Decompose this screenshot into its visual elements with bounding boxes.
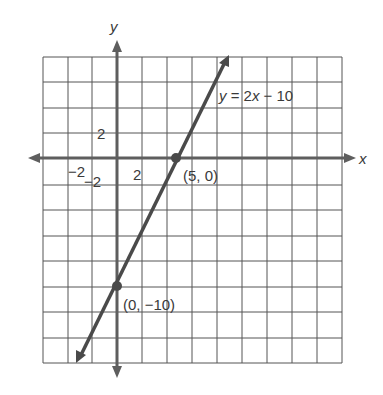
y-tick-label-2: 2	[97, 125, 105, 142]
equation-label: y = 2x − 10	[218, 87, 293, 104]
point-label-5-0: (5, 0)	[183, 167, 218, 184]
coordinate-graph: y x 2 2 −2 −2 y = 2x − 10 (5, 0) (0, −10…	[0, 0, 383, 395]
point-5-0	[171, 153, 181, 163]
x-tick-label-neg2: −2	[68, 163, 85, 180]
line-y-equals-2x-minus-10	[76, 55, 229, 363]
x-tick-label-2: 2	[133, 166, 141, 183]
grid	[43, 57, 342, 363]
y-axis	[112, 40, 122, 378]
y-axis-label: y	[109, 18, 119, 35]
y-tick-label-neg2: −2	[84, 173, 101, 190]
point-0-neg10	[112, 281, 122, 291]
point-label-0-neg10: (0, −10)	[123, 296, 175, 313]
x-axis-label: x	[358, 150, 367, 167]
